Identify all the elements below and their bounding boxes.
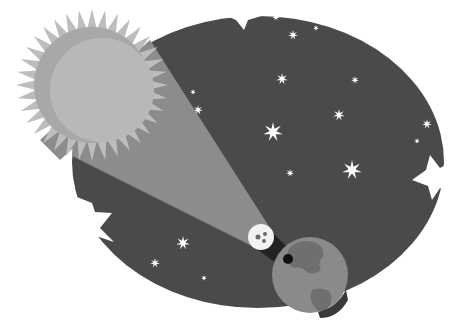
eclipse-shadow-spot: [283, 254, 293, 264]
moon: [248, 224, 274, 250]
eclipse-illustration: [0, 0, 455, 325]
eclipse-svg: [0, 0, 455, 325]
